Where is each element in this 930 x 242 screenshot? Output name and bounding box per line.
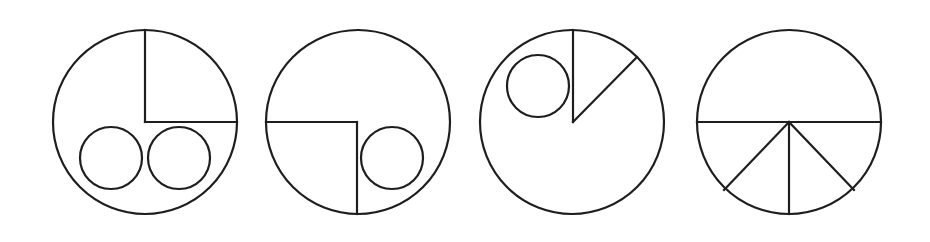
inner-circle — [80, 127, 142, 189]
segment-line — [789, 122, 854, 190]
inner-circle — [361, 127, 423, 189]
figure-2 — [266, 30, 450, 214]
figure-4 — [697, 30, 881, 214]
diagram-svg — [0, 0, 930, 242]
segment-line — [573, 57, 637, 122]
diagram-canvas — [0, 0, 930, 242]
inner-circle — [148, 127, 210, 189]
inner-circle — [507, 55, 569, 117]
figure-3 — [480, 30, 664, 214]
figure-1 — [53, 30, 237, 214]
segment-line — [724, 122, 789, 190]
